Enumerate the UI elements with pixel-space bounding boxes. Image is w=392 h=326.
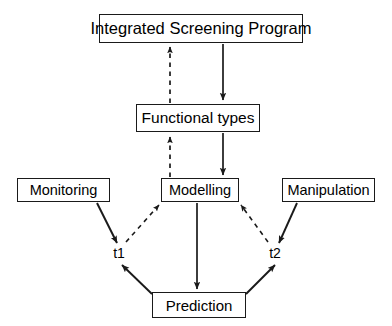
- edge-monitoring-to-t1: [97, 203, 117, 243]
- node-functional-types[interactable]: Functional types: [136, 104, 260, 132]
- node-t2: t2: [266, 245, 284, 260]
- edge-layer: [0, 0, 392, 326]
- node-label: Prediction: [166, 298, 233, 313]
- node-modelling[interactable]: Modelling: [161, 178, 239, 202]
- node-label: Manipulation: [287, 183, 369, 198]
- node-label: Monitoring: [30, 183, 98, 198]
- edge-t2-to-modelling: [241, 205, 268, 242]
- node-prediction[interactable]: Prediction: [152, 292, 246, 318]
- node-integrated-screening-program[interactable]: Integrated Screening Program: [99, 14, 303, 43]
- edge-prediction-to-t2: [246, 265, 275, 294]
- node-t1: t1: [110, 245, 128, 260]
- node-label: Modelling: [169, 183, 231, 198]
- node-label: Functional types: [142, 110, 255, 126]
- flow-diagram: Integrated Screening Program Functional …: [0, 0, 392, 326]
- node-monitoring[interactable]: Monitoring: [17, 178, 110, 202]
- edge-manipulation-to-t2: [279, 203, 297, 243]
- edge-prediction-to-t1: [122, 265, 152, 294]
- node-manipulation[interactable]: Manipulation: [282, 178, 375, 202]
- edge-t1-to-modelling: [126, 205, 159, 242]
- node-label: Integrated Screening Program: [90, 20, 311, 37]
